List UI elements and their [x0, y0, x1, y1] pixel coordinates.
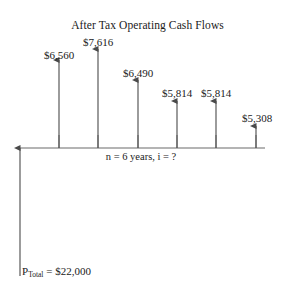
cash-flow-label-5: $5,814 — [201, 87, 231, 99]
cash-flow-label-6: $5,308 — [242, 112, 272, 124]
timeline-note: n = 6 years, i = ? — [106, 151, 176, 162]
ptotal-subscript: Total — [28, 270, 43, 279]
cash-flow-vector-graphic — [0, 0, 295, 295]
initial-investment-label: PTotal = $22,000 — [22, 265, 91, 277]
period-tick-marks — [59, 135, 256, 148]
ptotal-value: = $22,000 — [43, 265, 90, 277]
cash-flow-label-4: $5,814 — [162, 87, 192, 99]
cash-flow-label-2: $7,616 — [83, 36, 113, 48]
cash-flow-diagram: After Tax Operating Cash Flows — [0, 0, 295, 295]
cash-flow-label-3: $6,490 — [123, 67, 153, 79]
cash-flow-label-1: $6,560 — [44, 49, 74, 61]
